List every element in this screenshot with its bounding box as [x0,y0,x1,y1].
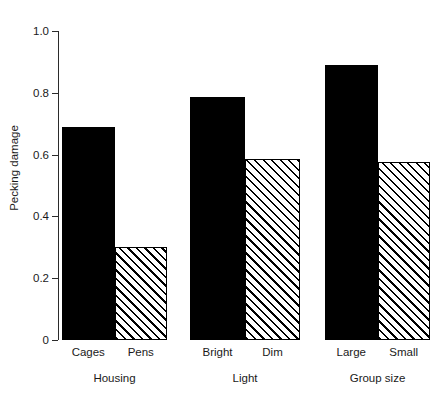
bar [62,127,115,340]
category-label: Cages [62,346,115,358]
category-label: Dim [245,346,300,358]
bar [378,162,431,340]
bar [190,97,245,340]
bar [115,247,168,340]
pecking-damage-bar-chart: 00.20.40.60.81.0 Pecking damage CagesPen… [0,0,441,399]
category-label: Small [378,346,431,358]
bar-group [62,31,167,340]
bar [325,65,378,340]
bar-group [325,31,430,340]
category-label: Large [325,346,378,358]
group-label: Group size [325,372,430,384]
bar [245,159,300,340]
bar-group [190,31,300,340]
group-label: Housing [62,372,167,384]
category-label: Bright [190,346,245,358]
bars-layer: CagesPensHousingBrightDimLightLargeSmall… [0,0,441,399]
category-label: Pens [115,346,168,358]
group-label: Light [190,372,300,384]
